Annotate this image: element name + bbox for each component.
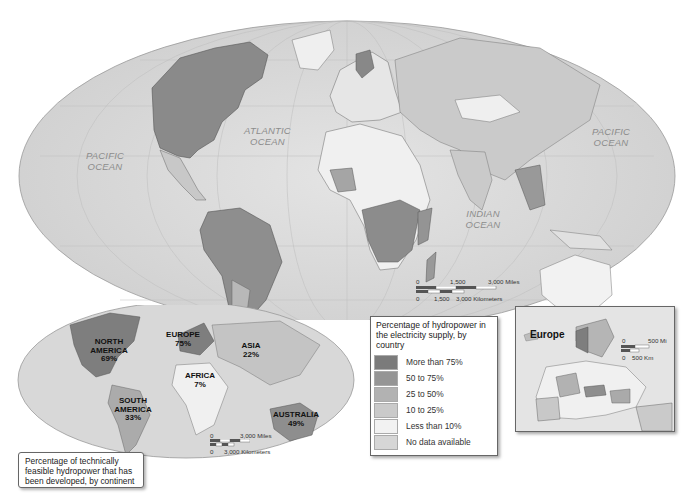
ocean-name-line2: OCEAN — [586, 137, 636, 148]
world-hydropower-map: PACIFIC OCEAN ATLANTIC OCEAN INDIAN OCEA… — [0, 0, 688, 320]
scale-bar-graphic — [210, 439, 250, 447]
legend-item: Less than 10% — [374, 418, 497, 434]
continent-label-africa: AFRICA 7% — [180, 372, 220, 389]
inset-scale-km-end: 500 Km — [632, 354, 653, 361]
scale-km-end: 3,000 Kilometers — [224, 448, 270, 455]
continent-value: 75% — [160, 340, 206, 349]
europe-inset-title: Europe — [530, 329, 564, 340]
legend-item: 50 to 75% — [374, 370, 497, 386]
scale-km-zero: 0 — [416, 295, 419, 302]
inset-scale-mi-zero: 0 — [622, 337, 625, 344]
continent-label-asia: ASIA 22% — [236, 342, 266, 359]
scale-miles-zero: 0 — [416, 278, 419, 285]
legend-swatch-25-to-50 — [374, 387, 398, 402]
legend-swatch-50-to-75 — [374, 371, 398, 386]
legend-item: 10 to 25% — [374, 402, 497, 418]
legend-label: Less than 10% — [406, 421, 461, 431]
legend-label: More than 75% — [406, 357, 463, 367]
scale-miles-zero: 0 — [210, 432, 213, 439]
scale-miles-mid: 1,500 — [450, 278, 465, 285]
ocean-label-atlantic: ATLANTIC OCEAN — [240, 125, 295, 147]
legend-item: More than 75% — [374, 354, 497, 370]
continent-scale-bar: 0 3,000 Miles 0 3,000 Kilometers — [208, 432, 288, 456]
ocean-name-line1: ATLANTIC — [240, 125, 295, 136]
inset-scale-km-zero: 0 — [622, 354, 625, 361]
continent-label-north-america: NORTH AMERICA 69% — [84, 338, 134, 364]
continent-value: 7% — [180, 381, 220, 390]
continent-value: 33% — [108, 414, 158, 423]
europe-map-graphic — [516, 307, 674, 431]
legend-item: No data available — [374, 434, 497, 450]
legend-item: 25 to 50% — [374, 386, 497, 402]
continent-label-australia: AUSTRALIA 49% — [270, 411, 322, 428]
europe-inset-map: Europe 0 500 Mi 0 500 Km — [515, 306, 675, 432]
ocean-name-line2: OCEAN — [458, 219, 508, 230]
continent-label-europe: EUROPE 75% — [160, 331, 206, 348]
continent-label-south-america: SOUTH AMERICA 33% — [108, 397, 158, 423]
legend-swatch-10-to-25 — [374, 403, 398, 418]
continent-value: 22% — [236, 351, 266, 360]
legend-label: 50 to 75% — [406, 373, 444, 383]
scale-km-mid: 1,500 — [434, 295, 449, 302]
continent-value: 69% — [84, 355, 134, 364]
legend: Percentage of hydropower in the electric… — [370, 316, 498, 456]
scale-km-end: 3,000 Kilometers — [456, 295, 502, 302]
ocean-label-pacific-west: PACIFIC OCEAN — [80, 150, 130, 172]
main-scale-bar: 0 1,500 3,000 Miles 0 1,500 3,000 Kilome… — [414, 278, 524, 304]
legend-swatch-less-than-10 — [374, 419, 398, 434]
ocean-name-line1: PACIFIC — [586, 126, 636, 137]
legend-swatch-no-data — [374, 435, 398, 450]
ocean-name-line1: INDIAN — [458, 208, 508, 219]
scale-miles-end: 3,000 Miles — [488, 278, 520, 285]
legend-label: 10 to 25% — [406, 405, 444, 415]
legend-label: 25 to 50% — [406, 389, 444, 399]
continent-map-caption: Percentage of technically feasible hydro… — [18, 452, 144, 488]
legend-label: No data available — [406, 437, 471, 447]
inset-scale-mi-end: 500 Mi — [648, 337, 667, 344]
ocean-name-line2: OCEAN — [240, 136, 295, 147]
legend-swatch-more-than-75 — [374, 355, 398, 370]
ocean-name-line2: OCEAN — [80, 161, 130, 172]
scale-miles-end: 3,000 Miles — [240, 432, 272, 439]
ocean-label-pacific-east: PACIFIC OCEAN — [586, 126, 636, 148]
continent-value: 49% — [270, 420, 322, 429]
ocean-name-line1: PACIFIC — [80, 150, 130, 161]
ocean-label-indian: INDIAN OCEAN — [458, 208, 508, 230]
scale-km-zero: 0 — [210, 448, 213, 455]
scale-bar-graphic — [416, 286, 498, 294]
legend-title: Percentage of hydropower in the electric… — [371, 317, 497, 350]
